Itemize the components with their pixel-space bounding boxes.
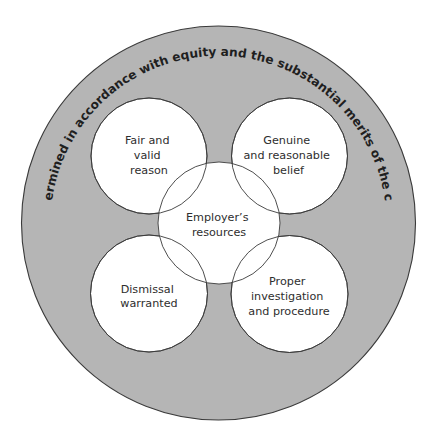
venn-diagram: Determined in accordance with equity and…	[0, 0, 434, 447]
label-line: Employer’s	[186, 211, 249, 224]
label-line: valid	[134, 149, 161, 162]
label-dismissal-warranted: Dismissal warranted	[120, 283, 177, 310]
label-line: and procedure	[248, 305, 329, 318]
label-line: reason	[130, 164, 168, 177]
label-line: warranted	[120, 297, 177, 310]
label-line: Genuine	[263, 134, 310, 147]
label-line: Dismissal	[121, 283, 174, 296]
label-line: Fair and	[125, 134, 170, 147]
label-line: and reasonable	[244, 149, 331, 162]
label-line: Proper	[269, 275, 306, 288]
label-line: resources	[192, 226, 246, 239]
label-line: belief	[273, 164, 305, 177]
label-line: investigation	[251, 290, 323, 303]
